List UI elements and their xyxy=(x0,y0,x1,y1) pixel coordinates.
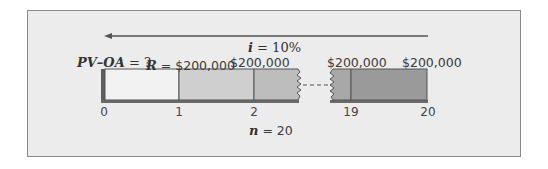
timeline-graphic xyxy=(0,0,548,169)
pv-var: PV–OA xyxy=(77,55,125,70)
interest-rate-label: i = 10% xyxy=(248,40,301,55)
tick-1: 1 xyxy=(175,105,183,119)
payment-label-19: $200,000 xyxy=(327,55,387,70)
segment-break-19 xyxy=(330,69,351,100)
tick-2: 2 xyxy=(250,105,258,119)
pv-oa-label: PV–OA = ? xyxy=(77,55,151,70)
rent-label: R = $200,000 xyxy=(146,55,235,74)
interest-value: = 10% xyxy=(253,40,301,55)
tick-0: 0 xyxy=(100,105,108,119)
tick-19: 19 xyxy=(343,105,358,119)
payment-label-2: $200,000 xyxy=(230,55,290,70)
tick-20: 20 xyxy=(420,105,435,119)
segment-2-break xyxy=(254,69,301,100)
periods-label: n = 20 xyxy=(249,120,293,139)
discount-arrow-icon xyxy=(104,33,428,39)
segment-19-20 xyxy=(351,69,427,100)
periods-value: = 20 xyxy=(258,123,292,138)
rent-value: = $200,000 xyxy=(157,58,235,73)
payment-label-20: $200,000 xyxy=(402,55,462,70)
rent-var: R xyxy=(146,58,157,73)
